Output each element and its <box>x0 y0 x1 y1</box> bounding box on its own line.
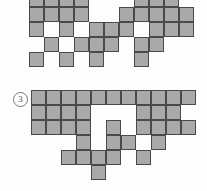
grid-cell[interactable] <box>136 150 151 165</box>
figure-top <box>29 0 207 82</box>
grid-cell[interactable] <box>31 90 46 105</box>
grid-cell[interactable] <box>134 37 149 52</box>
grid-cell[interactable] <box>74 0 89 7</box>
grid-cell[interactable] <box>89 52 104 67</box>
grid-cell[interactable] <box>46 120 61 135</box>
figure-top-grid <box>29 0 207 82</box>
grid-cell[interactable] <box>74 7 89 22</box>
grid-cell[interactable] <box>61 105 76 120</box>
grid-cell[interactable] <box>76 135 91 150</box>
grid-cell[interactable] <box>61 120 76 135</box>
grid-cell[interactable] <box>89 22 104 37</box>
grid-cell[interactable] <box>91 90 106 105</box>
grid-cell[interactable] <box>106 135 121 150</box>
grid-cell[interactable] <box>31 105 46 120</box>
grid-cell[interactable] <box>29 7 44 22</box>
grid-cell[interactable] <box>149 22 164 37</box>
grid-cell[interactable] <box>61 90 76 105</box>
grid-cell[interactable] <box>134 7 149 22</box>
grid-cell[interactable] <box>164 7 179 22</box>
grid-cell[interactable] <box>44 37 59 52</box>
grid-cell[interactable] <box>151 90 166 105</box>
grid-cell[interactable] <box>151 135 166 150</box>
grid-cell[interactable] <box>164 0 179 7</box>
grid-cell[interactable] <box>76 90 91 105</box>
grid-cell[interactable] <box>76 150 91 165</box>
grid-cell[interactable] <box>181 120 196 135</box>
grid-cell[interactable] <box>31 120 46 135</box>
circled-number: 3 <box>13 92 28 107</box>
grid-cell[interactable] <box>61 150 76 165</box>
grid-cell[interactable] <box>166 120 181 135</box>
grid-cell[interactable] <box>91 150 106 165</box>
grid-cell[interactable] <box>59 0 74 7</box>
grid-cell[interactable] <box>151 105 166 120</box>
grid-cell[interactable] <box>134 0 149 7</box>
figure-bottom-grid <box>31 90 207 180</box>
grid-cell[interactable] <box>134 52 149 67</box>
grid-cell[interactable] <box>91 165 106 180</box>
grid-cell[interactable] <box>59 7 74 22</box>
grid-cell[interactable] <box>121 90 136 105</box>
grid-cell[interactable] <box>29 22 44 37</box>
grid-cell[interactable] <box>106 120 121 135</box>
grid-cell[interactable] <box>121 135 136 150</box>
grid-cell[interactable] <box>44 7 59 22</box>
grid-cell[interactable] <box>74 37 89 52</box>
grid-cell[interactable] <box>29 52 44 67</box>
grid-cell[interactable] <box>44 0 59 7</box>
grid-cell[interactable] <box>181 90 196 105</box>
grid-cell[interactable] <box>59 22 74 37</box>
grid-cell[interactable] <box>104 22 119 37</box>
grid-cell[interactable] <box>136 120 151 135</box>
grid-cell[interactable] <box>164 22 179 37</box>
grid-cell[interactable] <box>46 90 61 105</box>
grid-cell[interactable] <box>46 105 61 120</box>
grid-cell[interactable] <box>136 90 151 105</box>
figure-bottom <box>31 90 207 180</box>
grid-cell[interactable] <box>151 120 166 135</box>
grid-cell[interactable] <box>59 52 74 67</box>
grid-cell[interactable] <box>149 37 164 52</box>
grid-cell[interactable] <box>119 22 134 37</box>
grid-cell[interactable] <box>149 0 164 7</box>
grid-cell[interactable] <box>104 37 119 52</box>
grid-cell[interactable] <box>29 0 44 7</box>
grid-cell[interactable] <box>166 90 181 105</box>
grid-cell[interactable] <box>166 105 181 120</box>
figure-bottom-label: 3 <box>13 92 28 107</box>
grid-cell[interactable] <box>76 120 91 135</box>
grid-cell[interactable] <box>179 22 194 37</box>
grid-cell[interactable] <box>106 90 121 105</box>
grid-cell[interactable] <box>106 150 121 165</box>
grid-cell[interactable] <box>76 105 91 120</box>
grid-cell[interactable] <box>89 37 104 52</box>
grid-cell[interactable] <box>136 105 151 120</box>
grid-cell[interactable] <box>179 7 194 22</box>
grid-cell[interactable] <box>149 7 164 22</box>
grid-cell[interactable] <box>119 7 134 22</box>
